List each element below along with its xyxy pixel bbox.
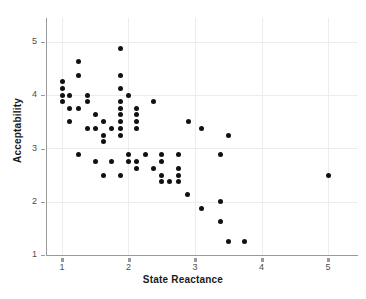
x-tick-label: 2	[119, 262, 139, 272]
gridline-vertical	[62, 18, 63, 255]
data-point	[242, 239, 247, 244]
gridline-vertical	[195, 18, 196, 255]
x-tick-label: 5	[318, 262, 338, 272]
y-tick	[41, 42, 45, 43]
data-point	[134, 166, 139, 171]
y-axis-spine	[46, 18, 47, 256]
x-tick-label: 4	[252, 262, 272, 272]
data-point	[93, 159, 98, 164]
data-point	[176, 152, 181, 157]
data-point	[134, 112, 139, 117]
gridline-horizontal	[46, 202, 358, 203]
y-tick-label: 3	[24, 143, 37, 153]
data-point	[101, 139, 106, 144]
data-point	[60, 86, 65, 91]
data-point	[159, 152, 164, 157]
y-tick	[41, 149, 45, 150]
data-point	[126, 93, 131, 98]
gridline-vertical	[262, 18, 263, 255]
data-point	[159, 173, 164, 178]
data-point	[118, 46, 123, 51]
y-tick-label: 5	[24, 36, 37, 46]
x-tick-label: 1	[52, 262, 72, 272]
data-point	[118, 126, 123, 131]
data-point	[218, 152, 223, 157]
x-tick-label: 3	[185, 262, 205, 272]
data-point	[199, 206, 204, 211]
data-point	[85, 93, 90, 98]
y-tick-label: 1	[24, 249, 37, 259]
data-point	[93, 126, 98, 131]
data-point	[118, 99, 123, 104]
data-point	[176, 173, 181, 178]
data-point	[118, 133, 123, 138]
data-point	[185, 192, 190, 197]
data-point	[118, 73, 123, 78]
data-point	[85, 99, 90, 104]
y-tick	[41, 95, 45, 96]
data-point	[76, 59, 81, 64]
data-point	[151, 99, 156, 104]
data-point	[159, 159, 164, 164]
data-point	[101, 119, 106, 124]
data-point	[134, 159, 139, 164]
data-point	[134, 119, 139, 124]
data-point	[118, 173, 123, 178]
data-point	[67, 119, 72, 124]
data-point	[218, 219, 223, 224]
data-point	[118, 112, 123, 117]
data-point	[176, 179, 181, 184]
y-tick-label: 2	[24, 196, 37, 206]
data-point	[326, 173, 331, 178]
x-axis-label: State Reactance	[0, 274, 366, 285]
data-point	[109, 126, 114, 131]
gridline-horizontal	[46, 148, 358, 149]
gridline-vertical	[128, 18, 129, 255]
data-point	[126, 159, 131, 164]
data-point	[60, 93, 65, 98]
data-point	[76, 152, 81, 157]
data-point	[67, 106, 72, 111]
y-tick-label: 4	[24, 89, 37, 99]
data-point	[176, 166, 181, 171]
data-point	[226, 239, 231, 244]
gridline-vertical	[328, 18, 329, 255]
data-point	[101, 173, 106, 178]
x-axis-spine	[46, 255, 358, 256]
data-point	[199, 126, 204, 131]
data-point	[134, 126, 139, 131]
data-point	[118, 106, 123, 111]
data-point	[67, 93, 72, 98]
data-point	[101, 133, 106, 138]
data-point	[76, 106, 81, 111]
data-point	[151, 166, 156, 171]
data-point	[186, 119, 191, 124]
data-point	[226, 133, 231, 138]
data-point	[76, 73, 81, 78]
data-point	[60, 79, 65, 84]
data-point	[93, 112, 98, 117]
data-point	[118, 86, 123, 91]
data-point	[126, 152, 131, 157]
scatter-plot-figure: 12345 12345 State Reactance Acceptabilit…	[0, 0, 366, 299]
y-axis-label: Acceptability	[12, 56, 23, 206]
gridline-horizontal	[46, 95, 358, 96]
data-point	[60, 99, 65, 104]
gridline-horizontal	[46, 42, 358, 43]
data-point	[218, 199, 223, 204]
data-point	[109, 159, 114, 164]
data-point	[143, 152, 148, 157]
data-point	[118, 119, 123, 124]
data-point	[167, 179, 172, 184]
y-tick	[41, 202, 45, 203]
data-point	[134, 106, 139, 111]
y-tick	[41, 255, 45, 256]
data-point	[159, 179, 164, 184]
data-point	[85, 126, 90, 131]
